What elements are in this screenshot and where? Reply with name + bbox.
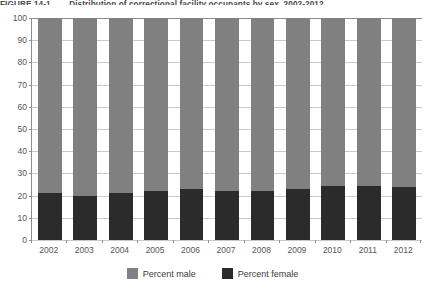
stacked-bar xyxy=(144,18,168,240)
bar-slot xyxy=(174,18,209,240)
x-axis-label: 2006 xyxy=(173,245,208,255)
x-axis-tick-slot xyxy=(102,240,137,244)
y-axis-tick-label: 50 xyxy=(3,125,27,134)
bar-segment-female xyxy=(109,193,133,240)
x-axis-tickmark xyxy=(244,240,245,243)
legend-label: Percent male xyxy=(143,269,196,279)
x-axis-label: 2012 xyxy=(386,245,421,255)
x-axis-tickmark xyxy=(279,240,280,243)
x-axis-tickmark xyxy=(315,240,316,243)
x-axis-label: 2011 xyxy=(350,245,385,255)
bar-slot xyxy=(103,18,138,240)
bar-segment-female xyxy=(286,189,310,240)
plot-area xyxy=(31,18,422,241)
bar-segment-male xyxy=(144,18,168,191)
y-axis-tick-label: 70 xyxy=(3,80,27,89)
x-axis-label: 2005 xyxy=(137,245,172,255)
stacked-bar xyxy=(392,18,416,240)
bar-slot xyxy=(280,18,315,240)
x-axis-label: 2008 xyxy=(244,245,279,255)
bar-segment-male xyxy=(286,18,310,189)
x-axis-tick-slot xyxy=(173,240,208,244)
bar-slot xyxy=(387,18,422,240)
stacked-bar xyxy=(286,18,310,240)
bar-segment-male xyxy=(215,18,239,191)
x-axis-tickmark xyxy=(137,240,138,243)
bar-segment-female xyxy=(357,186,381,240)
bar-segment-female xyxy=(73,196,97,240)
y-axis-tick-label: 20 xyxy=(3,191,27,200)
x-axis-label: 2010 xyxy=(315,245,350,255)
y-axis-tick-label: 80 xyxy=(3,58,27,67)
bar-segment-female xyxy=(215,191,239,240)
bar-segment-male xyxy=(321,18,345,186)
bar-segment-male xyxy=(180,18,204,189)
x-axis-label: 2004 xyxy=(102,245,137,255)
x-axis-label: 2007 xyxy=(208,245,243,255)
bar-segment-male xyxy=(251,18,275,191)
x-axis-tick-slot xyxy=(244,240,279,244)
x-axis-tickmark xyxy=(208,240,209,243)
bar-segment-female xyxy=(180,189,204,240)
bar-segment-female xyxy=(144,191,168,240)
bar-slot xyxy=(316,18,351,240)
chart-legend: Percent malePercent female xyxy=(0,268,425,279)
stacked-bar xyxy=(215,18,239,240)
bar-segment-male xyxy=(38,18,62,193)
bar-segment-female xyxy=(321,186,345,240)
x-axis-tick-slot xyxy=(208,240,243,244)
bar-slot xyxy=(351,18,386,240)
stacked-bar xyxy=(251,18,275,240)
stacked-bar xyxy=(73,18,97,240)
bar-slot xyxy=(67,18,102,240)
bar-segment-male xyxy=(109,18,133,193)
y-axis-tick-label: 60 xyxy=(3,103,27,112)
stacked-bar xyxy=(357,18,381,240)
y-axis-tick-label: 40 xyxy=(3,147,27,156)
stacked-bar xyxy=(321,18,345,240)
bar-slot xyxy=(245,18,280,240)
bar-slot xyxy=(32,18,67,240)
x-axis-label: 2003 xyxy=(66,245,101,255)
x-axis-tickmark xyxy=(350,240,351,243)
x-axis-tick-slot xyxy=(315,240,350,244)
x-axis-tick-slot xyxy=(31,240,66,244)
x-axis-tickmark xyxy=(386,240,387,243)
bar-slot xyxy=(209,18,244,240)
x-axis-label: 2002 xyxy=(31,245,66,255)
x-axis-tick-slot xyxy=(279,240,314,244)
bar-segment-male xyxy=(73,18,97,196)
bar-segment-male xyxy=(392,18,416,187)
legend-swatch-icon xyxy=(222,268,233,279)
x-axis-tickmark xyxy=(102,240,103,243)
x-axis-tickmark xyxy=(31,240,32,243)
bar-group xyxy=(32,18,422,240)
y-axis-tick-label: 30 xyxy=(3,169,27,178)
x-axis-tick-slot xyxy=(386,240,421,244)
x-axis-tickmark xyxy=(173,240,174,243)
x-axis-label: 2009 xyxy=(279,245,314,255)
y-axis-tick-label: 10 xyxy=(3,214,27,223)
stacked-bar xyxy=(38,18,62,240)
x-axis-tickmark xyxy=(66,240,67,243)
bar-segment-female xyxy=(251,191,275,240)
x-axis-tickmarks xyxy=(31,240,421,244)
y-axis-tick-label: 100 xyxy=(3,14,27,23)
y-axis: 0102030405060708090100 xyxy=(0,0,27,292)
legend-entry: Percent female xyxy=(222,268,299,279)
legend-label: Percent female xyxy=(238,269,299,279)
bar-segment-female xyxy=(392,187,416,240)
x-axis-tick-slot xyxy=(350,240,385,244)
y-axis-tick-label: 90 xyxy=(3,36,27,45)
bar-segment-male xyxy=(357,18,381,186)
legend-entry: Percent male xyxy=(127,268,196,279)
bar-segment-female xyxy=(38,193,62,240)
stacked-bar-chart: 0102030405060708090100 20022003200420052… xyxy=(0,0,425,292)
bar-slot xyxy=(138,18,173,240)
stacked-bar xyxy=(180,18,204,240)
legend-swatch-icon xyxy=(127,268,138,279)
stacked-bar xyxy=(109,18,133,240)
x-axis-tick-slot xyxy=(66,240,101,244)
x-axis-labels: 2002200320042005200620072008200920102011… xyxy=(31,245,421,255)
x-axis-tick-slot xyxy=(137,240,172,244)
